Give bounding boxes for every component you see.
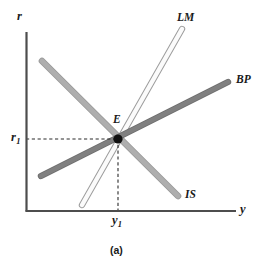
x-tick-base: y <box>112 213 118 227</box>
equilibrium-point-label: E <box>113 114 121 126</box>
curve-label-lm: LM <box>177 12 194 24</box>
figure-container: r y r1 y1 E LM BP IS (a) <box>0 0 266 270</box>
is-lm-bp-diagram <box>0 0 266 270</box>
figure-caption: (a) <box>110 244 123 256</box>
curve-bp <box>41 82 228 176</box>
x-axis-label: y <box>240 203 246 216</box>
y-tick-label-r1: r1 <box>11 131 20 144</box>
curve-label-is: IS <box>185 189 196 201</box>
curve-is <box>42 61 178 196</box>
equilibrium-point-marker <box>113 134 122 143</box>
y-tick-subscript: 1 <box>16 136 20 146</box>
curve-label-bp: BP <box>236 74 251 86</box>
x-tick-label-y1: y1 <box>112 214 122 227</box>
x-tick-subscript: 1 <box>118 219 122 229</box>
y-axis-label: r <box>17 10 22 23</box>
